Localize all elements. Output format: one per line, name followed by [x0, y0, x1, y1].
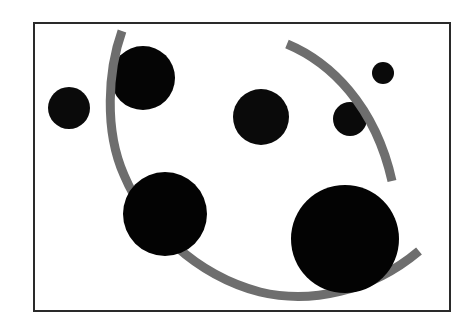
- circle-lower-left-large: [123, 172, 207, 256]
- circle-left-small: [48, 87, 90, 129]
- circles-behind-arc: [48, 46, 394, 145]
- circles-over-arc: [123, 172, 399, 293]
- circle-top-right-tiny: [372, 62, 394, 84]
- circle-middle: [233, 89, 289, 145]
- circle-lower-right-largest: [291, 185, 399, 293]
- circle-upper-left-large: [111, 46, 175, 110]
- diagram-canvas: [0, 0, 466, 333]
